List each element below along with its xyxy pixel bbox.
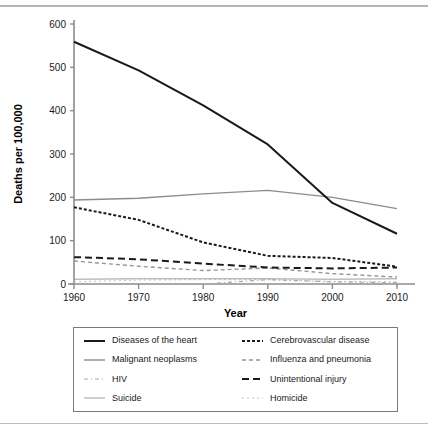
y-axis-title: Deaths per 100,000 (12, 104, 24, 204)
legend-swatch-icon (83, 355, 106, 365)
x-tick-label: 1970 (127, 292, 150, 303)
legend-item: Diseases of the heart (74, 336, 232, 346)
x-tick-label: 1960 (63, 292, 86, 303)
legend-item-label: Influenza and pneumonia (270, 355, 371, 364)
x-tick-label: 1990 (257, 292, 280, 303)
legend-swatch-icon (241, 393, 264, 403)
legend-swatch-icon (83, 374, 106, 384)
legend-item-label: Malignant neoplasms (112, 355, 197, 364)
legend-item-label: HIV (112, 375, 127, 384)
y-tick-label: 200 (49, 192, 66, 203)
line-chart-plot: 0100200300400500600196019701980199020002… (0, 8, 428, 323)
legend-item-label: Homicide (270, 394, 308, 403)
legend-item: HIV (74, 374, 232, 384)
legend-item-label: Diseases of the heart (112, 336, 197, 345)
legend-item: Malignant neoplasms (74, 355, 232, 365)
legend-item-label: Suicide (112, 394, 142, 403)
series-line (74, 190, 397, 208)
x-tick-label: 2000 (321, 292, 344, 303)
x-tick-label: 1980 (192, 292, 215, 303)
legend-item: Homicide (232, 393, 397, 403)
legend-item: Suicide (74, 393, 232, 403)
x-tick-label: 2010 (386, 292, 409, 303)
legend-swatch-icon (241, 355, 264, 365)
y-tick-label: 300 (49, 149, 66, 160)
legend-item: Cerebrovascular disease (232, 336, 397, 346)
series-line (74, 257, 397, 268)
series-line (74, 42, 397, 234)
y-tick-label: 400 (49, 105, 66, 116)
chart-legend: Diseases of the heartCerebrovascular dis… (73, 327, 398, 412)
legend-item: Influenza and pneumonia (232, 355, 397, 365)
legend-swatch-icon (241, 336, 264, 346)
y-tick-label: 500 (49, 62, 66, 73)
y-tick-label: 0 (60, 279, 66, 290)
bottom-divider-rule (0, 423, 428, 424)
series-line (74, 261, 397, 277)
figure-container: 0100200300400500600196019701980199020002… (0, 0, 428, 431)
y-tick-label: 100 (49, 235, 66, 246)
legend-item-label: Unintentional injury (270, 375, 347, 384)
legend-swatch-icon (83, 393, 106, 403)
legend-item-label: Cerebrovascular disease (270, 336, 370, 345)
legend-swatch-icon (83, 336, 106, 346)
top-divider-rule (0, 5, 428, 7)
y-tick-label: 600 (49, 19, 66, 30)
legend-swatch-icon (241, 374, 264, 384)
x-axis-title: Year (224, 307, 248, 319)
legend-item: Unintentional injury (232, 374, 397, 384)
